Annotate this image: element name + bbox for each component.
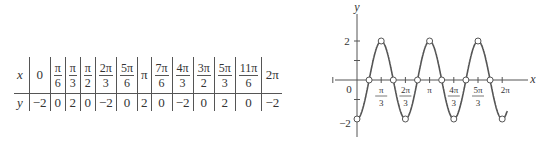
key-point: [415, 77, 421, 83]
key-point: [366, 77, 372, 83]
key-point: [439, 77, 445, 83]
x-tick-label: 4π: [449, 85, 459, 95]
x-tick-label: 3: [403, 98, 408, 108]
x-tick-label: 3: [379, 98, 384, 108]
y-axis-label: y: [353, 0, 360, 14]
cosine-graph: yx02−2π32π3π4π35π32π: [0, 0, 549, 152]
x-tick-label: 2π: [501, 85, 511, 95]
axis-labels: yx02−2π32π3π4π35π32π: [339, 0, 536, 129]
key-point: [487, 77, 493, 83]
x-tick-label: 5π: [473, 85, 483, 95]
y-tick-label: −2: [339, 117, 351, 129]
key-point: [427, 38, 433, 44]
x-tick-label: 3: [476, 98, 481, 108]
key-point: [475, 38, 481, 44]
key-point: [354, 116, 360, 122]
key-point: [499, 116, 505, 122]
key-point: [402, 116, 408, 122]
origin-label: 0: [346, 83, 352, 95]
x-axis-label: x: [529, 72, 536, 86]
x-tick-label: 3: [452, 98, 457, 108]
key-point: [378, 38, 384, 44]
key-point: [451, 116, 457, 122]
key-point: [463, 77, 469, 83]
x-tick-label: π: [427, 85, 432, 95]
key-point: [390, 77, 396, 83]
y-tick-label: 2: [344, 35, 350, 47]
x-tick-label: π: [379, 85, 384, 95]
x-tick-label: 2π: [401, 85, 411, 95]
